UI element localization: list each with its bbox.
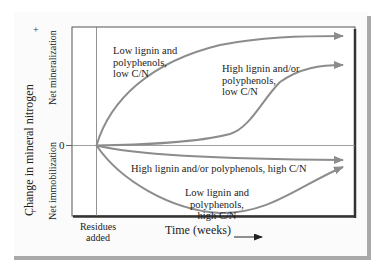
label-line: polyphenols, bbox=[113, 57, 177, 69]
label-low-lignin-low-cn: Low lignin and polyphenols, low C/N bbox=[113, 45, 177, 80]
zero-tick-label: 0 bbox=[59, 139, 65, 151]
residues-line-2: added bbox=[78, 232, 118, 243]
residues-line-1: Residues bbox=[78, 221, 118, 232]
label-line: polyphenols, bbox=[222, 75, 300, 87]
label-line: low C/N bbox=[222, 86, 300, 98]
label-high-lignin-low-cn: High lignin and/or polyphenols, low C/N bbox=[222, 63, 300, 98]
label-line: Low lignin and polyphenols, bbox=[157, 187, 277, 210]
minus-sign: – bbox=[31, 205, 36, 216]
label-high-lignin-high-cn: High lignin and/or polyphenols, high C/N bbox=[131, 163, 307, 175]
label-line: Low lignin and bbox=[113, 45, 177, 57]
plus-sign: + bbox=[33, 24, 39, 35]
x-axis-title: Time (weeks) bbox=[165, 223, 231, 238]
label-line: low C/N bbox=[113, 68, 177, 80]
y-axis-negative-label: Net immobilization bbox=[47, 142, 58, 220]
residues-added-label: Residues added bbox=[78, 221, 118, 243]
label-line: High lignin and/or bbox=[222, 63, 300, 75]
label-low-lignin-high-cn: Low lignin and polyphenols, high C/N bbox=[157, 187, 277, 222]
y-axis-title: Change in mineral nitrogen bbox=[22, 84, 37, 216]
label-line: High lignin and/or polyphenols, high C/N bbox=[131, 163, 307, 175]
label-line: high C/N bbox=[157, 210, 277, 222]
y-axis-positive-label: Net mineralization bbox=[47, 30, 58, 105]
